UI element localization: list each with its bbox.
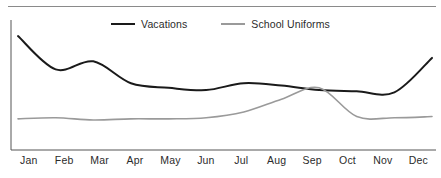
plot-area: [0, 0, 441, 178]
x-axis-tick-apr: Apr: [117, 153, 152, 169]
x-axis-tick-sep: Sep: [294, 153, 329, 169]
series-line-vacations: [18, 36, 432, 95]
x-axis-tick-feb: Feb: [46, 153, 81, 169]
x-axis-tick-jan: Jan: [11, 153, 46, 169]
x-axis-tick-labels: Jan Feb Mar Apr May Jun Jul Aug Sep Oct …: [11, 153, 436, 169]
x-axis-tick-dec: Dec: [401, 153, 436, 169]
x-axis-tick-nov: Nov: [365, 153, 400, 169]
x-axis-tick-jun: Jun: [188, 153, 223, 169]
trends-line-chart: Vacations School Uniforms Jan Feb Mar Ap…: [0, 0, 441, 178]
x-axis-tick-mar: Mar: [82, 153, 117, 169]
x-axis-tick-oct: Oct: [330, 153, 365, 169]
x-axis-tick-may: May: [153, 153, 188, 169]
x-axis-tick-jul: Jul: [224, 153, 259, 169]
x-axis-tick-aug: Aug: [259, 153, 294, 169]
